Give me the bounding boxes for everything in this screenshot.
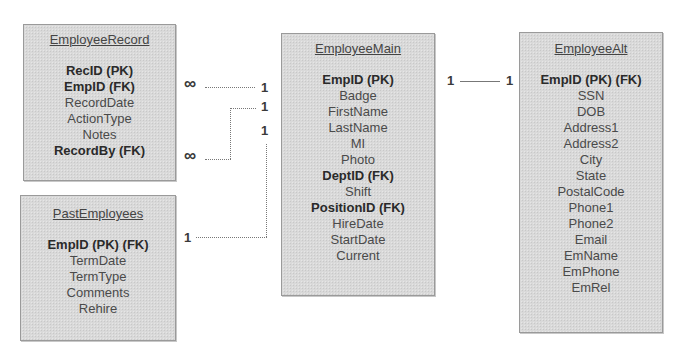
relationship-line-past-vertical (266, 144, 267, 237)
field-emname: EmName (520, 248, 662, 264)
relationship-line-recordby-bottom (205, 159, 231, 160)
relationship-line-record-empid (205, 87, 255, 88)
field-badge: Badge (282, 88, 434, 104)
field-recorddate: RecordDate (24, 95, 175, 111)
cardinality-one: 1 (261, 81, 268, 94)
field-positionid: PositionID (FK) (282, 200, 434, 216)
field-empid: EmpID (PK) (282, 72, 434, 88)
cardinality-one: 1 (261, 124, 268, 137)
entity-title: EmployeeRecord (24, 32, 175, 48)
cardinality-one: 1 (447, 74, 454, 87)
cardinality-one: 1 (184, 231, 191, 244)
field-address1: Address1 (520, 120, 662, 136)
entity-title: EmployeeMain (282, 41, 434, 57)
field-firstname: FirstName (282, 104, 434, 120)
field-emphone: EmPhone (520, 264, 662, 280)
field-hiredate: HireDate (282, 216, 434, 232)
field-empid: EmpID (PK) (FK) (520, 72, 662, 88)
field-notes: Notes (24, 127, 175, 143)
field-state: State (520, 168, 662, 184)
entity-past-employees[interactable]: PastEmployees EmpID (PK) (FK) TermDate T… (20, 195, 176, 341)
field-actiontype: ActionType (24, 111, 175, 127)
field-recid: RecID (PK) (24, 63, 175, 79)
field-dob: DOB (520, 104, 662, 120)
field-phone2: Phone2 (520, 216, 662, 232)
field-lastname: LastName (282, 120, 434, 136)
field-startdate: StartDate (282, 232, 434, 248)
entity-title: EmployeeAlt (520, 41, 662, 57)
field-postalcode: PostalCode (520, 184, 662, 200)
entity-employee-alt[interactable]: EmployeeAlt EmpID (PK) (FK) SSN DOB Addr… (519, 32, 663, 333)
field-city: City (520, 152, 662, 168)
field-comments: Comments (21, 285, 175, 301)
field-current: Current (282, 248, 434, 264)
field-phone1: Phone1 (520, 200, 662, 216)
field-shift: Shift (282, 184, 434, 200)
field-termtype: TermType (21, 269, 175, 285)
field-recordby: RecordBy (FK) (24, 143, 175, 159)
field-mi: MI (282, 136, 434, 152)
field-photo: Photo (282, 152, 434, 168)
field-empid: EmpID (FK) (24, 79, 175, 95)
relationship-line-past-horizontal (196, 237, 267, 238)
field-ssn: SSN (520, 88, 662, 104)
cardinality-many-icon: ∞ (184, 149, 195, 162)
field-rehire: Rehire (21, 301, 175, 317)
relationship-line-recordby-top (231, 108, 256, 109)
field-empid: EmpID (PK) (FK) (21, 237, 175, 253)
entity-employee-main[interactable]: EmployeeMain EmpID (PK) Badge FirstName … (281, 33, 435, 296)
field-email: Email (520, 232, 662, 248)
entity-title: PastEmployees (21, 206, 175, 222)
field-emrel: EmRel (520, 280, 662, 296)
entity-employee-record[interactable]: EmployeeRecord RecID (PK) EmpID (FK) Rec… (23, 24, 176, 181)
relationship-line-main-alt (460, 81, 500, 82)
field-address2: Address2 (520, 136, 662, 152)
cardinality-one: 1 (506, 74, 513, 87)
cardinality-one: 1 (261, 100, 268, 113)
field-termdate: TermDate (21, 253, 175, 269)
field-deptid: DeptID (FK) (282, 168, 434, 184)
relationship-line-recordby-vertical (230, 108, 231, 159)
cardinality-many-icon: ∞ (184, 77, 195, 90)
